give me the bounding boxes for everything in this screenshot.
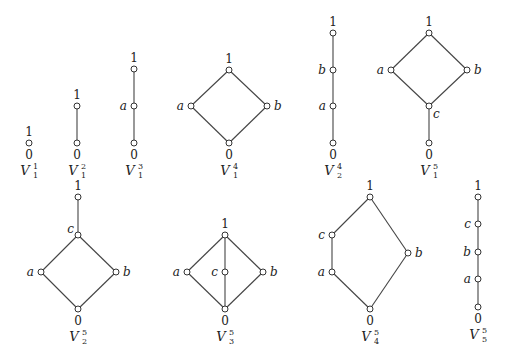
node-b [113,269,119,275]
node-label-1: 1 [74,179,82,193]
node-label-0: 0 [74,314,82,328]
node-label-1: 1 [73,88,81,102]
edge-1-a [191,70,229,106]
diagram-title: V [361,329,372,344]
diagram-title-superscript: 4 [233,162,238,171]
node-c [329,232,335,238]
node-label-b: b [463,245,471,259]
edge-1-b [370,197,408,253]
diagram-title-superscript: 3 [138,162,143,171]
node-label-a: a [27,265,34,279]
node-label-b: b [123,265,131,279]
diagram-title-superscript: 5 [482,326,487,335]
node-1 [222,232,228,238]
node-label-0: 0 [329,148,337,162]
edge-a-0 [191,106,229,143]
edge-1-b [225,235,263,272]
node-1 [75,194,81,200]
diagram-title-subscript: 1 [433,171,438,180]
node-label-a: a [173,265,180,279]
node-label-0: 0 [225,148,233,162]
edge-b-0 [229,106,267,143]
node-b [405,250,411,256]
diagram-title-subscript: 5 [482,335,487,344]
node-1 [426,30,432,36]
node-label-0: 0 [130,148,138,162]
node-label-b: b [270,265,278,279]
lattice-diagrams-canvas: 10V1110V211a0V311ab0V411ba0V421abc0V511c… [0,0,506,359]
node-0 [367,306,373,312]
node-label-c: c [433,107,440,121]
diagram-title-superscript: 5 [374,328,379,337]
node-a [475,276,481,282]
node-label-1: 1 [366,179,374,193]
node-label-a: a [464,272,471,286]
node-label-0: 0 [366,314,374,328]
node-label-a: a [318,265,325,279]
node-label-c: c [464,217,471,231]
diagram-title: V [420,163,431,178]
edge-c-a [41,235,78,272]
node-1 [330,30,336,36]
edge-1-b [229,70,267,106]
lattice-V4_5: 1cab0V54 [318,179,423,346]
node-label-c: c [211,265,218,279]
node-label-1: 1 [474,179,482,193]
node-label-a: a [377,63,384,77]
diagram-title: V [324,163,335,178]
node-label-b: b [474,63,482,77]
lattice-V1_2: 10V21 [68,88,86,180]
node-c [222,269,228,275]
diagram-title-subscript: 4 [374,337,379,346]
edge-c-b [78,235,116,272]
diagram-title-superscript: 5 [433,162,438,171]
node-c [475,221,481,227]
lattice-V1_3: 1a0V31 [120,51,143,180]
node-b [264,103,270,109]
node-label-1: 1 [329,15,337,29]
node-1 [475,194,481,200]
edge-b-0 [78,272,116,309]
node-label-c: c [318,228,325,242]
diagram-title-subscript: 2 [82,337,87,346]
node-label-b: b [274,99,282,113]
edge-a-0 [187,272,225,309]
node-label-1: 1 [425,15,433,29]
node-label-1: 1 [225,52,233,66]
node-1 [74,103,80,109]
edge-1-c [332,197,370,235]
node-b [475,249,481,255]
diagram-title-subscript: 2 [337,171,342,180]
edge-a-0 [41,272,78,309]
lattice-V3_5: 1acb0V53 [173,217,278,346]
node-b [464,67,470,73]
node-label-0: 0 [73,148,81,162]
node-label-c: c [67,222,74,236]
node-a [388,67,394,73]
diagram-title-superscript: 4 [337,162,342,171]
node-1 [226,67,232,73]
node-a [330,103,336,109]
node-0 [75,306,81,312]
diagram-title-superscript: 5 [229,328,234,337]
node-label-a: a [177,99,184,113]
node-label-b: b [415,246,423,260]
diagram-title: V [469,327,480,342]
node-label-1: 1 [25,125,33,139]
node-label-b: b [318,63,326,77]
node-label-a: a [319,99,326,113]
diagram-title: V [69,329,80,344]
node-a [38,269,44,275]
node-label-1: 1 [221,217,229,231]
node-label-a: a [120,99,127,113]
node-0 [74,140,80,146]
diagram-title: V [216,329,227,344]
node-0 [475,304,481,310]
node-a [184,269,190,275]
node-label-0: 0 [425,148,433,162]
node-b [260,269,266,275]
edge-b-0 [370,253,408,309]
node-1 [367,194,373,200]
node-a [329,269,335,275]
node-c [75,232,81,238]
